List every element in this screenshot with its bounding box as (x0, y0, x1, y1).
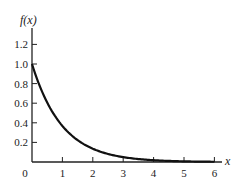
y-tick-label: 0.2 (14, 136, 28, 148)
x-tick-label: 2 (90, 167, 96, 179)
data-line (32, 64, 214, 162)
y-tick-label: 0.6 (14, 97, 28, 109)
y-tick-label: 1.0 (14, 58, 28, 70)
x-ticks: 0123456 (22, 157, 217, 179)
y-tick-label: 0.4 (14, 117, 28, 129)
x-tick-label: 5 (181, 167, 187, 179)
x-tick-label: 1 (60, 167, 66, 179)
y-tick-label: 0.8 (14, 78, 28, 90)
x-tick-label: 0 (22, 167, 28, 179)
axes (32, 28, 222, 162)
x-tick-label: 6 (212, 167, 218, 179)
chart: 0.20.40.60.81.01.2 0123456 f(x) x (0, 0, 238, 185)
y-tick-label: 1.2 (14, 38, 28, 50)
y-axis-label: f(x) (20, 13, 37, 27)
x-tick-label: 3 (120, 167, 126, 179)
x-tick-label: 4 (151, 167, 157, 179)
y-ticks: 0.20.40.60.81.01.2 (14, 38, 37, 148)
x-axis-label: x (224, 154, 231, 168)
